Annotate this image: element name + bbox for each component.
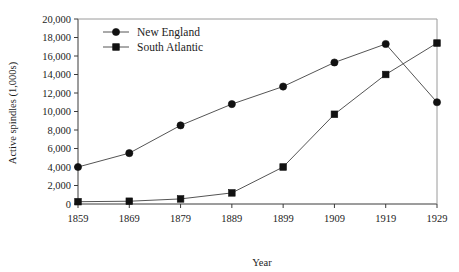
data-point-circle [74, 163, 81, 170]
y-tick-label: 14,000 [42, 69, 71, 80]
data-point-square [331, 111, 338, 118]
y-tick-label: 8,000 [47, 125, 71, 136]
x-tick-label: 1909 [324, 213, 345, 224]
data-point-square [126, 198, 133, 205]
data-point-square [382, 71, 389, 78]
legend-marker-circle [112, 28, 119, 35]
y-tick-label: 6,000 [47, 143, 71, 154]
data-point-square [75, 198, 82, 205]
y-tick-label: 12,000 [42, 88, 71, 99]
data-point-circle [382, 40, 389, 47]
legend-marker-square [113, 44, 120, 51]
x-tick-label: 1859 [68, 213, 89, 224]
data-series-group [74, 40, 440, 205]
data-point-square [280, 164, 287, 171]
data-point-square [177, 196, 184, 203]
chart-container: 02,0004,0006,0008,00010,00012,00014,0001… [0, 0, 459, 272]
y-tick-label: 0 [66, 199, 71, 210]
series-line-new-england [78, 44, 437, 167]
series-line-south-atlantic [78, 43, 437, 202]
y-tick-label: 10,000 [42, 106, 71, 117]
data-point-circle [433, 99, 440, 106]
legend-label: South Atlantic [137, 41, 203, 53]
chart-legend: New EnglandSouth Atlantic [103, 26, 203, 53]
x-axis-title: Year [252, 257, 272, 268]
x-tick-label: 1889 [221, 213, 242, 224]
x-tick-label: 1919 [375, 213, 396, 224]
data-point-circle [126, 150, 133, 157]
y-tick-label: 20,000 [42, 14, 71, 25]
data-point-circle [228, 101, 235, 108]
y-tick-label: 4,000 [47, 162, 71, 173]
data-point-circle [177, 122, 184, 129]
x-tick-label: 1879 [170, 213, 191, 224]
legend-label: New England [137, 26, 200, 39]
y-tick-label: 18,000 [42, 32, 71, 43]
x-axis-ticks: 18591869187918891899190919191929 [68, 204, 448, 224]
x-tick-label: 1869 [119, 213, 140, 224]
data-point-square [229, 190, 236, 197]
y-axis-title: Active spindles (1,000s) [7, 61, 19, 164]
y-tick-label: 16,000 [42, 51, 71, 62]
y-axis-ticks: 02,0004,0006,0008,00010,00012,00014,0001… [42, 14, 78, 210]
x-tick-label: 1899 [273, 213, 294, 224]
y-tick-label: 2,000 [47, 180, 71, 191]
data-point-circle [280, 83, 287, 90]
x-tick-label: 1929 [427, 213, 448, 224]
line-chart: 02,0004,0006,0008,00010,00012,00014,0001… [0, 0, 459, 272]
data-point-circle [331, 59, 338, 66]
data-point-square [434, 40, 441, 47]
